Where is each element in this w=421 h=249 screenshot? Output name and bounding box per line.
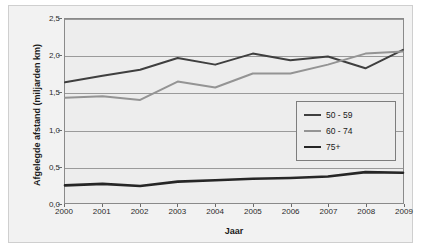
legend-swatch-icon: [304, 146, 321, 148]
x-axis-tick-label: 2008: [357, 207, 375, 216]
y-axis-tick-mark: [58, 18, 62, 19]
y-axis-tick-mark: [58, 92, 62, 93]
series-line: [65, 50, 403, 82]
legend-item[interactable]: 75+: [304, 139, 389, 155]
legend-item[interactable]: 50 - 59: [304, 107, 389, 123]
y-axis-tick-marks: [40, 18, 62, 204]
x-axis-tick-label: 2001: [93, 207, 111, 216]
y-axis-tick-mark: [58, 167, 62, 168]
legend-swatch-icon: [304, 130, 321, 132]
legend-item[interactable]: 60 - 74: [304, 123, 389, 139]
series-line: [65, 172, 403, 186]
x-axis-tick-label: 2002: [131, 207, 149, 216]
y-axis-tick-mark: [58, 130, 62, 131]
legend-label: 50 - 59: [326, 110, 352, 120]
x-axis-tick-label: 2003: [168, 207, 186, 216]
legend-label: 60 - 74: [326, 126, 352, 136]
x-axis-title: Jaar: [64, 226, 404, 236]
legend-swatch-icon: [304, 114, 321, 116]
x-axis-tick-label: 2005: [244, 207, 262, 216]
line-chart: Afgelegde afstand (miljarden km) 0,00,51…: [0, 0, 421, 249]
legend-label: 75+: [326, 142, 340, 152]
x-axis-tick-label: 2007: [320, 207, 338, 216]
y-axis-tick-mark: [58, 55, 62, 56]
x-axis-tick-label: 2004: [206, 207, 224, 216]
x-axis-tick-label: 2006: [282, 207, 300, 216]
x-axis-tick-label: 2009: [395, 207, 413, 216]
x-axis-tick-label: 2000: [55, 207, 73, 216]
x-axis-tick-labels: 2000200120022003200420052006200720082009: [64, 207, 404, 221]
chart-legend: 50 - 5960 - 7475+: [296, 101, 396, 161]
y-axis-tick-mark: [58, 204, 62, 205]
